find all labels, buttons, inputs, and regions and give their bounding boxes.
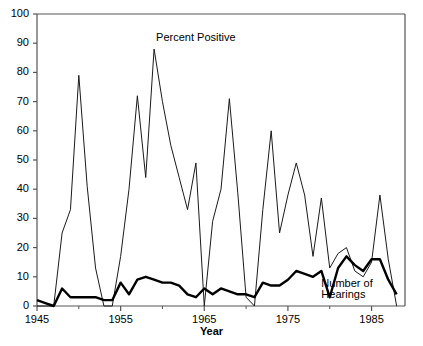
y-tick-label-50: 50 <box>0 154 29 165</box>
x-tick-marks <box>37 306 372 311</box>
y-tick-label-10: 10 <box>0 271 29 282</box>
x-tick-label-1945: 1945 <box>12 314 62 325</box>
y-tick-label-90: 90 <box>0 37 29 48</box>
x-tick-label-1975: 1975 <box>263 314 313 325</box>
x-tick-label-1965: 1965 <box>179 314 229 325</box>
y-tick-label-20: 20 <box>0 242 29 253</box>
x-tick-label-1955: 1955 <box>96 314 146 325</box>
series-annotation-number-of-hearings-line2: Hearings <box>321 288 365 301</box>
y-tick-label-30: 30 <box>0 212 29 223</box>
y-tick-label-60: 60 <box>0 125 29 136</box>
axis-frame <box>37 14 405 306</box>
y-tick-label-80: 80 <box>0 66 29 77</box>
y-tick-label-70: 70 <box>0 96 29 107</box>
x-axis-title: Year <box>0 325 423 337</box>
chart-container: 0102030405060708090100 19451955196519751… <box>0 0 423 346</box>
x-tick-label-1985: 1985 <box>347 314 397 325</box>
series-line-percent-positive <box>37 49 397 306</box>
y-tick-label-40: 40 <box>0 183 29 194</box>
y-tick-label-100: 100 <box>0 8 29 19</box>
y-tick-label-0: 0 <box>0 300 29 311</box>
series-annotation-percent-positive: Percent Positive <box>156 31 235 44</box>
